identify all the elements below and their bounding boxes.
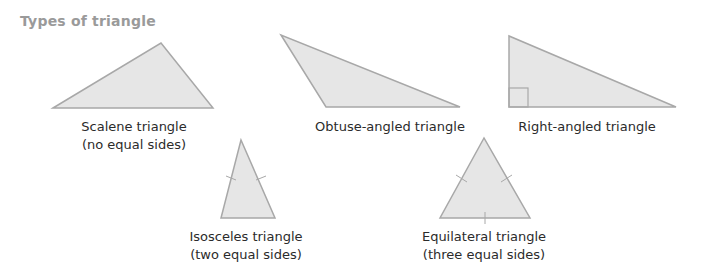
right-label: Right-angled triangle	[518, 118, 656, 136]
scalene-label: Scalene triangle (no equal sides)	[81, 118, 186, 154]
isosceles-name: Isosceles triangle	[189, 228, 302, 246]
equilateral-name: Equilateral triangle	[422, 228, 546, 246]
equilateral-note: (three equal sides)	[422, 246, 546, 264]
right-name: Right-angled triangle	[518, 118, 656, 136]
equilateral-label: Equilateral triangle (three equal sides)	[422, 228, 546, 264]
scalene-note: (no equal sides)	[81, 136, 186, 154]
isosceles-triangle	[221, 140, 275, 218]
obtuse-label: Obtuse-angled triangle	[315, 118, 465, 136]
scalene-name: Scalene triangle	[81, 118, 186, 136]
isosceles-note: (two equal sides)	[189, 246, 302, 264]
obtuse-name: Obtuse-angled triangle	[315, 118, 465, 136]
isosceles-label: Isosceles triangle (two equal sides)	[189, 228, 302, 264]
obtuse-triangle	[281, 35, 460, 107]
right-triangle	[509, 36, 676, 107]
equilateral-triangle	[440, 138, 530, 218]
scalene-triangle	[53, 43, 213, 108]
